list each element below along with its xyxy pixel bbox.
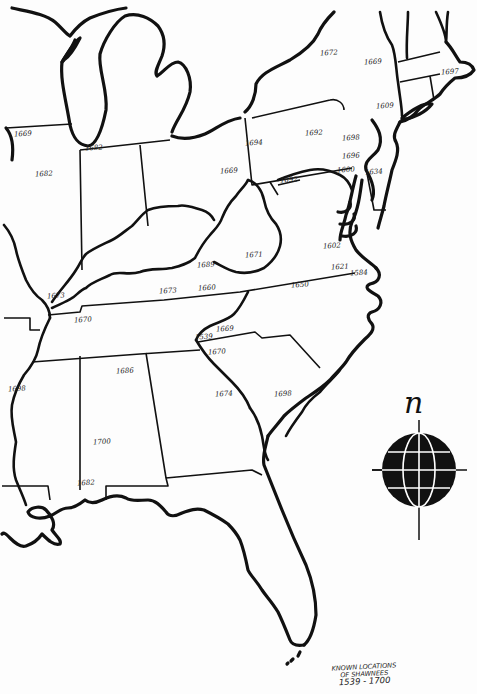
year-label-indiana-north: 1682	[85, 143, 103, 152]
missouri-border	[4, 318, 40, 330]
year-label-georgia-north: 1670	[208, 347, 226, 356]
year-label-pennsylvania-east: 1698	[342, 133, 360, 142]
mississippi-delta	[2, 507, 60, 546]
carolina-coast	[268, 268, 381, 436]
year-label-alabama: 1700	[93, 437, 111, 446]
map-legend: KNOWN LOCATIONS OF SHAWNEES 1539 - 1700	[331, 662, 397, 686]
year-label-north-carolina-west: 1669	[216, 324, 234, 333]
year-label-mississippi: 1698	[8, 384, 26, 393]
year-label-kentucky-south: 1673	[159, 286, 177, 295]
year-label-illinois: 1682	[35, 169, 53, 178]
delaware-bay	[366, 120, 381, 200]
green-bay-shore	[62, 38, 80, 62]
year-label-ohio-east: 1669	[220, 166, 238, 175]
north-indicator: n	[404, 385, 423, 420]
mississippi-river	[11, 318, 50, 505]
year-label-georgia: 1674	[215, 389, 233, 398]
florida-atlantic-coast	[263, 436, 316, 645]
year-label-pennsylvania: 1692	[305, 128, 323, 137]
new-england-borders	[398, 52, 440, 100]
deep-south-borders	[2, 353, 262, 500]
year-label-pennsylvania-southeast: 1696	[342, 151, 360, 160]
year-label-south-carolina: 1698	[274, 389, 292, 398]
year-label-alabama-gulf: 1682	[77, 478, 95, 487]
year-label-virginia-tidewater: 1621	[331, 262, 349, 271]
florida-keys	[287, 652, 300, 664]
year-label-kentucky-west: 1673	[47, 291, 65, 300]
year-label-massachusetts: 1697	[441, 67, 459, 76]
merrimack-river	[436, 12, 448, 42]
year-label-delaware: 1634	[365, 167, 383, 176]
lake-erie-shore	[172, 12, 334, 138]
year-label-virginia-tennessee-border: 1660	[198, 283, 216, 292]
year-label-new-york-harbor: 1609	[376, 101, 394, 110]
year-label-chesapeake: 1602	[323, 241, 341, 250]
mississippi-river-north	[6, 128, 13, 160]
year-label-alabama-north: 1686	[116, 366, 134, 375]
year-label-north-carolina-north: 1650	[291, 280, 309, 289]
wabash-river	[4, 225, 50, 318]
tennessee-south-border	[32, 350, 200, 362]
year-label-new-york-east: 1669	[364, 57, 382, 66]
ohio-river-upper	[52, 205, 214, 302]
connecticut-river	[407, 12, 408, 58]
year-label-illinois-north: 1669	[14, 129, 32, 138]
year-label-maryland-west: 1692	[280, 175, 298, 184]
year-label-roanoke: 1584	[350, 268, 368, 277]
kentucky-tennessee-border	[48, 273, 355, 315]
shawnee-locations-map: n 16691682168216691672166916971694169216…	[0, 0, 477, 694]
year-label-maryland-north: 1600	[337, 165, 355, 174]
chattahoochee-river	[250, 408, 268, 460]
year-label-virginia-southwest: 1689	[197, 260, 215, 269]
year-label-north-carolina-southwest: 1539	[195, 332, 213, 341]
florida-gulf-coast	[50, 496, 304, 646]
year-label-west-virginia-south: 1671	[245, 250, 263, 259]
year-label-new-york: 1672	[320, 48, 338, 57]
map-drawing	[0, 0, 477, 694]
globe-compass-icon	[372, 420, 467, 540]
lake-michigan-shore	[62, 15, 191, 146]
santee-river	[286, 370, 340, 436]
year-label-tennessee: 1670	[74, 315, 92, 324]
year-label-pennsylvania-west: 1694	[245, 138, 263, 147]
hudson-river	[380, 12, 402, 116]
